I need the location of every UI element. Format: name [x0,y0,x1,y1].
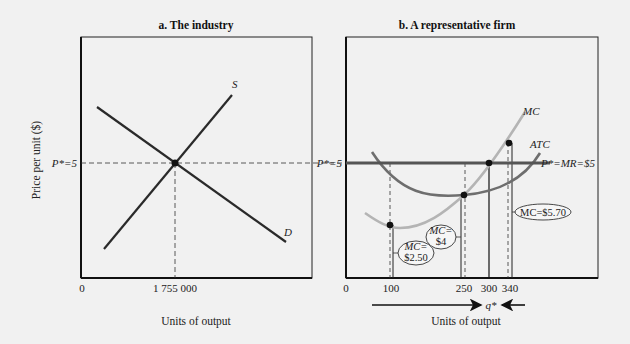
chart-canvas: Price per unit ($) a. The industry S D P… [0,0,630,344]
panel-a-origin-label: 0 [79,282,85,294]
tick-300: 300 [481,282,498,294]
supply-label: S [232,78,238,90]
q-star-label: q* [486,299,498,311]
point-q100 [387,222,394,229]
panel-a-title: a. The industry [159,19,234,32]
panel-a-x-axis-label: Units of output [161,315,231,328]
equilibrium-point [172,160,179,167]
bubble-mc-250-line1: MC= [404,241,428,252]
bubble-mc-250: MC= $2.50 [393,241,434,265]
figure: Price per unit ($) a. The industry S D P… [0,0,630,344]
point-q300 [486,160,493,167]
panel-a-quantity-label: 1 755 000 [153,282,198,294]
tick-250: 250 [456,282,473,294]
bubble-mc-570: MC=$5.70 [512,204,571,220]
atc-label: ATC [529,138,550,150]
panel-b-title: b. A representative firm [399,19,516,32]
mc-label: MC [522,105,540,117]
panel-b-origin-label: 0 [343,282,349,294]
mc-curve [365,112,525,228]
panel-a-price-label: P*=5 [51,157,78,169]
bubble-mc-570-text: MC=$5.70 [520,207,566,218]
bubble-mc-4: MC= $4 [426,225,461,249]
panel-b-price-label: P*=5 [316,157,343,169]
y-axis-label: Price per unit ($) [30,121,43,199]
panel-a-frame [81,37,312,278]
atc-curve [372,152,540,196]
tick-100: 100 [383,282,400,294]
panel-b: b. A representative firm MC ATC P*=MR=$5… [316,19,598,328]
mr-label: P*=MR=$5 [540,157,595,169]
bubble-mc-4-line1: MC= [429,225,453,236]
panel-a: a. The industry S D P*=5 0 1 755 000 Uni… [51,19,346,328]
supply-curve [104,95,232,249]
panel-b-x-axis-label: Units of output [431,315,501,328]
point-q250 [461,192,468,199]
demand-label: D [283,226,292,238]
bubble-mc-4-line2: $4 [436,236,447,247]
tick-340: 340 [502,282,519,294]
bubble-mc-250-line2: $2.50 [404,252,428,263]
point-q340 [506,140,513,147]
